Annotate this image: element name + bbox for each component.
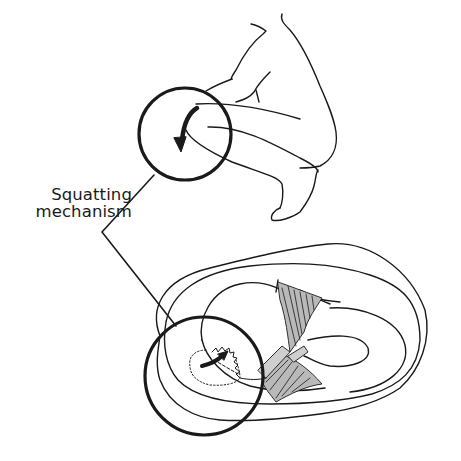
rotation-arrow-lower <box>202 356 222 366</box>
diagram-svg <box>0 0 461 461</box>
squatting-label-line2: mechanism <box>24 203 132 220</box>
cruciate-ligaments <box>258 282 322 402</box>
diagram-canvas <box>0 0 461 461</box>
squatting-label-line1: Squatting <box>36 186 132 203</box>
tear-outline <box>190 350 240 385</box>
squatting-figure <box>186 14 336 221</box>
